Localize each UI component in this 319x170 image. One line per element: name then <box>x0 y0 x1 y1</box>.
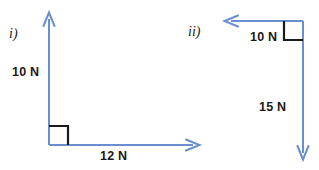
force-diagram-figure: i) 10 N 12 N ii) 10 N 15 N <box>0 0 319 170</box>
diagram-i-right-angle-marker <box>49 126 68 145</box>
diagram-i-vertical-force-label: 10 N <box>12 66 39 79</box>
diagram-i-horizontal-force-label: 12 N <box>100 150 127 163</box>
vector-diagram-canvas <box>0 0 319 170</box>
diagram-ii-right-angle-marker <box>284 21 303 40</box>
diagram-i-group <box>44 13 200 151</box>
diagram-ii-index-label: ii) <box>188 25 200 39</box>
diagram-ii-horizontal-force-label: 10 N <box>250 31 277 44</box>
diagram-ii-horizontal-arrow <box>225 16 304 27</box>
diagram-ii-vertical-arrow <box>298 21 309 160</box>
diagram-i-index-label: i) <box>9 27 18 41</box>
diagram-ii-vertical-force-label: 15 N <box>259 101 286 114</box>
